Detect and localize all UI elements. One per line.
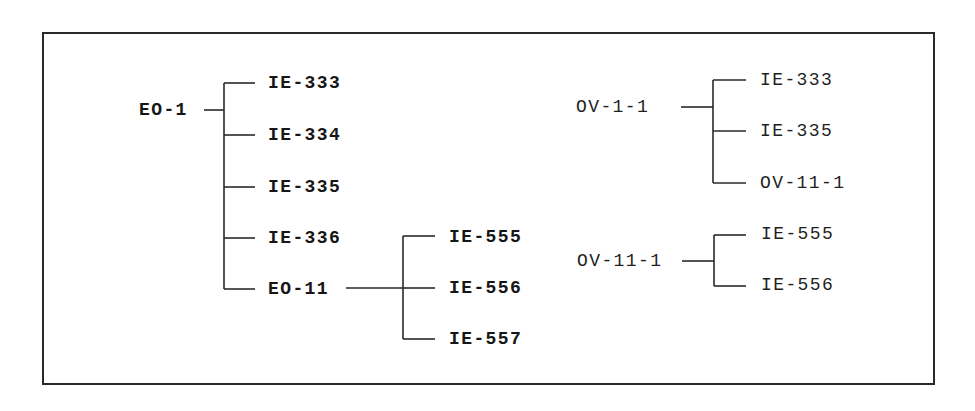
- node-ie-557: IE-557: [449, 330, 522, 348]
- node-ov-11-1: OV-11-1: [577, 252, 662, 270]
- node-ov-11-1-child: OV-11-1: [760, 174, 845, 192]
- node-eo-11: EO-11: [268, 280, 329, 298]
- node-ov-ie-333: IE-333: [760, 71, 833, 89]
- node-eo-1: EO-1: [139, 101, 188, 119]
- node-ie-556: IE-556: [449, 279, 522, 297]
- node-ov-ie-556: IE-556: [761, 276, 834, 294]
- node-ie-336: IE-336: [268, 229, 341, 247]
- node-ov-1-1: OV-1-1: [576, 98, 649, 116]
- tree-connectors: [0, 0, 975, 411]
- node-ov-ie-555: IE-555: [761, 225, 834, 243]
- node-ie-555: IE-555: [449, 228, 522, 246]
- node-ie-334: IE-334: [268, 126, 341, 144]
- node-ie-333: IE-333: [268, 74, 341, 92]
- node-ov-ie-335: IE-335: [760, 122, 833, 140]
- node-ie-335: IE-335: [268, 178, 341, 196]
